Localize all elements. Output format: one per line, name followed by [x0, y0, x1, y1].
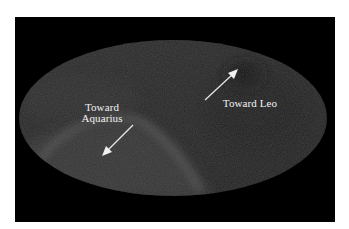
label-toward-aquarius: Toward Aquarius: [74, 102, 130, 124]
label-aquarius-line2: Aquarius: [74, 113, 130, 124]
sky-map: [0, 0, 349, 229]
label-toward-leo: Toward Leo: [220, 98, 280, 109]
sky-ellipse: [15, 35, 335, 205]
